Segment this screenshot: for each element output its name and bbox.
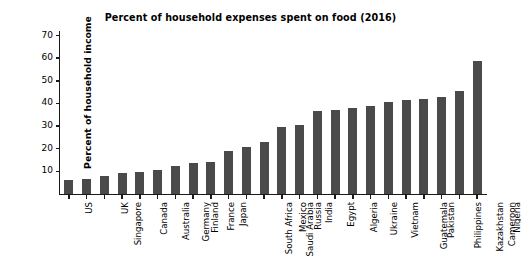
bar [242, 147, 251, 194]
x-tick-mark [317, 195, 318, 200]
x-tick-mark [370, 195, 371, 200]
x-tick-mark [299, 195, 300, 200]
bar [384, 102, 393, 194]
x-tick-label: Nigeria [511, 202, 521, 233]
x-tick-mark [423, 195, 424, 200]
x-tick-mark [68, 195, 69, 200]
bar [260, 142, 269, 194]
x-tick-label: Finland [210, 202, 220, 233]
bar [206, 162, 215, 194]
x-tick-mark [86, 195, 87, 200]
x-tick-label: France [225, 202, 235, 231]
x-tick-mark [352, 195, 353, 200]
bar [455, 91, 464, 194]
bar [171, 166, 180, 194]
bar [295, 125, 304, 194]
x-tick-label: Pakistan [446, 202, 456, 238]
x-tick-mark [405, 195, 406, 200]
bar [82, 179, 91, 194]
x-tick-label: US [84, 202, 94, 214]
y-tick-label: 50 [42, 75, 53, 85]
x-tick-label: Singapore [134, 202, 144, 245]
bar [224, 151, 233, 194]
bar [313, 111, 322, 194]
x-tick-mark [459, 195, 460, 200]
x-tick-label: Vietnam [410, 202, 420, 238]
y-tick-label: 40 [42, 97, 53, 107]
x-tick-label: Russia [313, 202, 323, 230]
bar [402, 100, 411, 194]
y-tick-label: 30 [42, 120, 53, 130]
x-tick-label: Mexico [298, 202, 308, 232]
x-tick-mark [334, 195, 335, 200]
y-tick-label: 10 [42, 165, 53, 175]
bar [473, 61, 482, 194]
x-tick-label: Japan [238, 202, 248, 226]
x-tick-label: Egypt [346, 202, 356, 227]
x-tick-mark [441, 195, 442, 200]
x-tick-label: Canada [158, 202, 168, 235]
bar [118, 173, 127, 194]
bar [64, 180, 73, 194]
x-tick-mark [228, 195, 229, 200]
bar [437, 97, 446, 194]
x-tick-label: Australia [181, 202, 191, 240]
x-tick-label: Philippines [474, 202, 484, 248]
y-tick-label: 20 [42, 143, 53, 153]
x-tick-label: Algeria [369, 202, 379, 232]
bar [135, 172, 144, 194]
x-tick-label: Kazakhstan [495, 202, 505, 252]
y-tick-label: 70 [42, 30, 53, 40]
x-tick-mark [281, 195, 282, 200]
bar [189, 163, 198, 194]
bar [153, 170, 162, 194]
x-tick-label: India [324, 202, 334, 223]
x-tick-mark [192, 195, 193, 200]
x-tick-mark [157, 195, 158, 200]
bar [419, 99, 428, 194]
bar [331, 110, 340, 194]
bar [277, 127, 286, 194]
bar-series [60, 31, 486, 194]
y-tick-label: 60 [42, 52, 53, 62]
bar [100, 176, 109, 194]
chart-title: Percent of household expenses spent on f… [0, 12, 501, 23]
x-tick-mark [263, 195, 264, 200]
x-tick-mark [121, 195, 122, 200]
bar [366, 106, 375, 194]
x-tick-mark [210, 195, 211, 200]
x-tick-mark [246, 195, 247, 200]
x-tick-mark [104, 195, 105, 200]
x-tick-label: Ukraine [390, 202, 400, 235]
x-tick-label: South Africa [284, 202, 294, 254]
x-tick-mark [175, 195, 176, 200]
x-tick-label: UK [120, 202, 130, 214]
x-tick-mark [476, 195, 477, 200]
x-tick-mark [388, 195, 389, 200]
bar [348, 108, 357, 194]
x-tick-mark [139, 195, 140, 200]
plot-area: Percent of household income 102030405060… [60, 31, 486, 194]
